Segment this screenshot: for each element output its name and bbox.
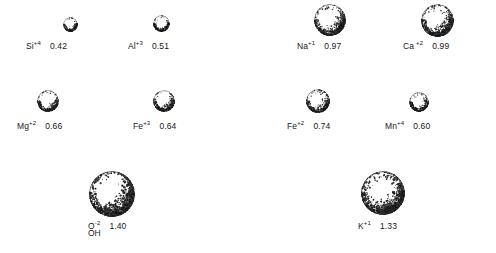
ion-symbol-mg: Mg	[17, 121, 29, 131]
ion-symbol-ca: Ca	[403, 41, 414, 51]
ion-symbol-fe2: Fe	[287, 121, 297, 131]
ion-radius-k: 1.33	[380, 221, 397, 231]
ion-symbol-al: Al	[128, 41, 136, 51]
ion-sphere-si	[63, 17, 78, 32]
ion-label-k: K+11.33	[358, 218, 397, 231]
ion-label-fe3: Fe+30.64	[133, 118, 176, 131]
ion-label-fe2: Fe+20.74	[287, 118, 330, 131]
ion-radius-na: 0.97	[324, 41, 341, 51]
ion-charge-al: +3	[136, 40, 143, 46]
ion-radius-fe2: 0.74	[313, 121, 330, 131]
ion-sphere-o	[89, 171, 135, 217]
ion-sphere-mg	[37, 90, 59, 112]
ion-label-mg: Mg+20.66	[17, 118, 62, 131]
ion-radius-ca: 0.99	[432, 41, 449, 51]
ion-charge-mn: +4	[397, 120, 404, 126]
ion-radius-al: 0.51	[152, 41, 169, 51]
ion-charge-o: -2	[95, 220, 101, 226]
ion-label-al: Al+30.51	[128, 38, 169, 51]
ion-charge-na: +1	[308, 40, 315, 46]
ion-sphere-al	[153, 15, 170, 32]
ion-radius-mg: 0.66	[45, 121, 62, 131]
ion-label-na: Na+10.97	[297, 38, 341, 51]
ion-sublabel-o: OH	[88, 228, 101, 238]
ion-radius-si: 0.42	[50, 41, 67, 51]
ion-sphere-fe3	[153, 90, 175, 112]
ion-charge-si: +4	[34, 40, 41, 46]
ion-symbol-si: Si	[26, 41, 34, 51]
ion-radius-mn: 0.60	[413, 121, 430, 131]
ion-sphere-na	[314, 4, 346, 36]
ion-sphere-ca	[421, 4, 454, 37]
ion-symbol-fe3: Fe	[133, 121, 143, 131]
ion-label-ca: Ca+20.99	[403, 38, 449, 51]
ion-symbol-mn: Mn	[385, 121, 397, 131]
ion-symbol-na: Na	[297, 41, 308, 51]
ionic-radii-figure: Si+40.42Al+30.51Na+10.97Ca+20.99Mg+20.66…	[0, 0, 496, 253]
ion-sphere-mn	[409, 92, 429, 112]
ion-charge-mg: +2	[29, 120, 36, 126]
ion-charge-ca: +2	[416, 40, 423, 46]
ion-charge-k: +1	[364, 220, 371, 226]
ion-label-si: Si+40.42	[26, 38, 67, 51]
ion-sphere-fe2	[306, 89, 330, 113]
ion-sphere-k	[361, 171, 405, 215]
ion-label-mn: Mn+40.60	[385, 118, 430, 131]
ion-radius-fe3: 0.64	[159, 121, 176, 131]
ion-charge-fe2: +2	[297, 120, 304, 126]
ion-symbol-k: K	[358, 221, 364, 231]
ion-radius-o: 1.40	[109, 221, 126, 231]
ion-charge-fe3: +3	[143, 120, 150, 126]
